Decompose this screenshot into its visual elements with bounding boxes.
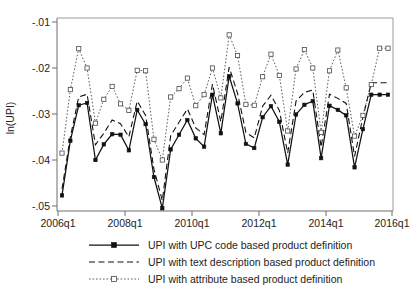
data-point-marker [77, 47, 81, 51]
data-point-marker [211, 93, 214, 96]
data-point-marker [127, 149, 130, 152]
data-point-marker [235, 53, 239, 57]
data-point-marker [327, 69, 331, 73]
data-point-marker [244, 102, 248, 106]
data-point-marker [261, 116, 264, 119]
data-point-marker [93, 121, 97, 125]
data-point-marker [269, 104, 272, 107]
data-point-marker [370, 93, 373, 96]
data-point-marker [177, 87, 181, 91]
data-point-marker [110, 84, 114, 88]
data-point-marker [294, 67, 298, 71]
data-point-marker [261, 75, 265, 79]
data-point-marker [60, 151, 64, 155]
data-point-marker [227, 33, 231, 37]
data-point-marker [311, 99, 314, 102]
data-point-marker [336, 108, 339, 111]
data-point-marker [311, 66, 315, 70]
data-point-marker [152, 137, 156, 141]
line-chart: ln(UPI) -.01 -.02 -.03 -.04 -.05 [0, 0, 419, 292]
data-point-marker [386, 46, 390, 50]
data-point-marker [344, 86, 348, 90]
data-point-marker [102, 97, 106, 101]
data-point-marker [85, 101, 88, 104]
data-point-marker [202, 93, 206, 97]
legend-label-text-description: UPI with text description based product … [148, 256, 375, 268]
data-point-marker [378, 93, 381, 96]
data-point-marker [68, 88, 72, 92]
legend-label-upc-code: UPI with UPC code based product definiti… [148, 239, 352, 251]
data-point-marker [219, 132, 222, 135]
data-point-marker [352, 134, 356, 138]
legend-swatch-filled-square-icon [112, 243, 117, 248]
data-point-marker [227, 75, 230, 78]
data-point-marker [144, 122, 147, 125]
data-point-marker [336, 48, 340, 52]
data-point-marker [102, 143, 105, 146]
y-tick-label: -.05 [32, 200, 50, 212]
data-point-marker [118, 102, 122, 106]
data-point-marker [253, 146, 256, 149]
data-point-marker [345, 114, 348, 117]
data-point-marker [286, 163, 289, 166]
data-point-marker [185, 76, 189, 80]
data-point-marker [85, 66, 89, 70]
data-point-marker [69, 139, 72, 142]
data-point-marker [60, 194, 63, 197]
data-point-marker [160, 158, 164, 162]
x-tick-label: 2008q1 [107, 217, 142, 229]
data-point-marker [353, 166, 356, 169]
data-point-marker [77, 104, 80, 107]
data-point-marker [361, 113, 365, 117]
x-tick-label: 2016q1 [374, 217, 409, 229]
data-point-marker [136, 108, 139, 111]
data-point-marker [143, 69, 147, 73]
legend-swatch-open-square-icon [112, 277, 117, 282]
data-point-marker [169, 95, 173, 99]
data-point-marker [202, 145, 205, 148]
x-tick-label: 2010q1 [174, 217, 209, 229]
data-point-marker [194, 104, 198, 108]
data-point-marker [152, 175, 155, 178]
y-tick-label: -.01 [32, 16, 50, 28]
data-point-marker [177, 133, 180, 136]
data-point-marker [378, 46, 382, 50]
data-point-marker [286, 129, 290, 133]
data-point-marker [269, 52, 273, 56]
y-axis-title: ln(UPI) [4, 102, 16, 135]
data-point-marker [219, 96, 223, 100]
chart-figure: ln(UPI) -.01 -.02 -.03 -.04 -.05 [0, 0, 419, 292]
data-point-marker [277, 73, 281, 77]
data-point-marker [194, 137, 197, 140]
data-point-marker [302, 48, 306, 52]
data-point-marker [386, 93, 389, 96]
x-tick-label: 2014q1 [308, 217, 343, 229]
data-point-marker [135, 68, 139, 72]
data-point-marker [119, 133, 122, 136]
data-point-marker [369, 82, 373, 86]
y-tick-label: -.04 [32, 154, 50, 166]
data-point-marker [186, 118, 189, 121]
data-point-marker [328, 104, 331, 107]
data-point-marker [169, 148, 172, 151]
data-point-marker [236, 102, 239, 105]
data-point-marker [244, 142, 247, 145]
data-point-marker [319, 130, 323, 134]
data-point-marker [127, 108, 131, 112]
data-point-marker [161, 207, 164, 210]
data-point-marker [319, 156, 322, 159]
data-point-marker [361, 127, 364, 130]
legend-label-attribute: UPI with attribute based product definit… [148, 273, 343, 285]
data-point-marker [94, 158, 97, 161]
y-tick-label: -.02 [32, 62, 50, 74]
data-point-marker [278, 120, 281, 123]
y-tick-label: -.03 [32, 108, 50, 120]
data-point-marker [294, 113, 297, 116]
x-tick-label: 2006q1 [40, 217, 75, 229]
data-point-marker [110, 133, 113, 136]
data-point-marker [210, 66, 214, 70]
data-point-marker [252, 103, 256, 107]
data-point-marker [303, 103, 306, 106]
x-tick-label: 2012q1 [241, 217, 276, 229]
